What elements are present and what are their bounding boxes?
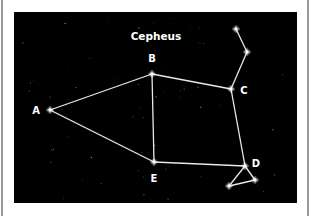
connection-line <box>152 74 231 89</box>
star-c1 <box>243 48 251 56</box>
connection-line <box>231 52 247 89</box>
constellation-diagram: ABCDE Cepheus <box>0 0 311 216</box>
star-e <box>150 158 158 166</box>
star-label-c: C <box>240 85 247 96</box>
connection-line <box>152 74 154 162</box>
star-label-b: B <box>148 53 156 64</box>
star-label-e: E <box>151 173 158 184</box>
star-label-d: D <box>252 158 260 169</box>
connection-line <box>50 110 154 162</box>
star-b <box>148 70 156 78</box>
star-c2 <box>232 25 240 33</box>
connection-line <box>231 89 245 166</box>
star-a <box>46 106 54 114</box>
star-c <box>227 85 235 93</box>
star-label-a: A <box>32 105 40 116</box>
star-d <box>241 162 249 170</box>
connection-line <box>154 162 245 166</box>
star-d2 <box>225 182 233 190</box>
connection-line <box>50 74 152 110</box>
constellation-title: Cepheus <box>131 30 182 42</box>
star-d1 <box>251 176 259 184</box>
